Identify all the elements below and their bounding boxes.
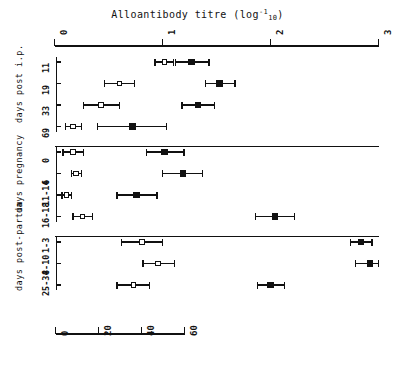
row-tick — [56, 173, 61, 174]
chart-title-sup: -1 — [259, 8, 268, 16]
filled-square-marker — [216, 80, 223, 87]
bottom-axis-tick — [55, 327, 56, 334]
open-circle-errorbar-cap-low — [154, 59, 155, 66]
open-circle-marker — [155, 261, 161, 267]
filled-square-errorbar-cap-low — [116, 192, 117, 199]
filled-square-errorbar-cap-high — [284, 282, 285, 289]
filled-square-marker — [195, 102, 202, 109]
open-circle-marker — [64, 192, 70, 198]
row-tick — [56, 284, 61, 285]
filled-square-marker — [180, 170, 187, 177]
open-circle-marker — [70, 124, 76, 130]
top-axis-tick-label: 1 — [167, 30, 177, 35]
filled-square-errorbar-cap-low — [181, 102, 182, 109]
bottom-axis-line — [56, 333, 185, 335]
chart-title-log-exponent: -110 — [259, 8, 277, 22]
open-circle-marker — [139, 239, 145, 245]
top-axis-tick — [270, 39, 271, 46]
top-axis-tick — [54, 39, 55, 46]
top-axis-tick-label: 0 — [59, 30, 69, 35]
top-axis-tick-label: 2 — [275, 30, 285, 35]
open-circle-errorbar-cap-high — [83, 149, 84, 156]
open-circle-errorbar-cap-high — [81, 170, 82, 177]
filled-square-errorbar-cap-low — [350, 239, 351, 246]
filled-square-marker — [267, 282, 274, 289]
bottom-axis-tick — [141, 327, 142, 334]
open-circle-errorbar-cap-low — [121, 239, 122, 246]
row-tick — [56, 216, 61, 217]
open-circle-errorbar-cap-high — [81, 123, 82, 130]
filled-square-errorbar-cap-low — [97, 123, 98, 130]
open-circle-errorbar-cap-low — [71, 170, 72, 177]
row-tick — [56, 263, 61, 264]
row-tick — [56, 126, 61, 127]
top-axis-tick — [162, 39, 163, 46]
open-circle-errorbar-cap-low — [142, 260, 143, 267]
filled-square-errorbar-cap-high — [183, 149, 184, 156]
row-label-11: 11 — [41, 63, 51, 73]
bottom-axis-tick-label: 0 — [60, 331, 70, 336]
group-bracket — [56, 147, 58, 222]
filled-square-errorbar-cap-high — [202, 170, 203, 177]
filled-square-errorbar-cap-low — [175, 59, 176, 66]
filled-square-marker — [161, 149, 168, 156]
filled-square-marker — [358, 239, 365, 246]
open-circle-errorbar-cap-low — [116, 282, 117, 289]
filled-square-errorbar-cap-low — [257, 282, 258, 289]
group-bracket — [56, 57, 58, 132]
open-circle-errorbar-cap-high — [92, 213, 93, 220]
open-circle-errorbar-cap-low — [61, 192, 62, 199]
open-circle-marker — [162, 59, 168, 65]
open-circle-marker — [70, 149, 76, 155]
filled-square-marker — [367, 260, 374, 267]
filled-square-errorbar-cap-high — [371, 239, 372, 246]
row-label-33: 33 — [41, 106, 51, 116]
open-circle-errorbar-cap-high — [149, 282, 150, 289]
top-axis-line — [55, 45, 379, 47]
filled-square-errorbar-cap-low — [162, 170, 163, 177]
row-label-0: 0 — [41, 158, 51, 163]
filled-square-errorbar-cap-high — [378, 260, 379, 267]
top-axis-tick-label: 3 — [383, 30, 393, 35]
open-circle-marker — [98, 102, 104, 108]
open-circle-errorbar-cap-high — [174, 260, 175, 267]
row-tick — [56, 61, 61, 62]
filled-square-errorbar-cap-high — [156, 192, 157, 199]
filled-square-errorbar-cap-high — [166, 123, 167, 130]
filled-square-marker — [133, 192, 140, 199]
filled-square-marker — [272, 213, 279, 220]
filled-square-marker — [129, 123, 136, 130]
row-tick — [56, 194, 61, 195]
bottom-axis-tick-label: 60 — [189, 325, 199, 336]
chart-title-main: Alloantibody titre (log — [111, 9, 259, 20]
chart-title-tail: ) — [277, 9, 283, 20]
row-label-1-3: 1-3 — [41, 238, 51, 253]
chart-root: Alloantibody titre (log-110) 01230204060… — [0, 0, 395, 370]
open-circle-errorbar-cap-low — [83, 102, 84, 109]
filled-square-errorbar-cap-high — [208, 59, 209, 66]
group-separator-rule — [55, 146, 379, 147]
row-tick — [56, 241, 61, 242]
bottom-axis-tick — [98, 327, 99, 334]
row-tick — [56, 104, 61, 105]
filled-square-errorbar-cap-low — [146, 149, 147, 156]
row-tick — [56, 83, 61, 84]
group-label-3: days post-partum — [14, 214, 24, 291]
bottom-axis-tick-label: 20 — [103, 325, 113, 336]
filled-square-marker — [188, 59, 195, 66]
open-circle-errorbar-cap-high — [162, 239, 163, 246]
bottom-axis-tick-label: 40 — [146, 325, 156, 336]
open-circle-marker — [73, 171, 79, 177]
filled-square-errorbar-cap-low — [205, 80, 206, 87]
open-circle-errorbar-cap-high — [71, 192, 72, 199]
row-label-69: 69 — [41, 127, 51, 137]
row-label-16-18: 16-18 — [41, 202, 51, 228]
row-label-19: 19 — [41, 84, 51, 94]
open-circle-errorbar-cap-low — [72, 213, 73, 220]
row-tick — [56, 151, 61, 152]
row-label-25-34: 25-34 — [41, 270, 51, 296]
group-label-1: days post i.p. — [14, 34, 24, 133]
open-circle-errorbar-cap-high — [173, 59, 174, 66]
open-circle-errorbar-cap-high — [119, 102, 120, 109]
open-circle-marker — [131, 282, 137, 288]
